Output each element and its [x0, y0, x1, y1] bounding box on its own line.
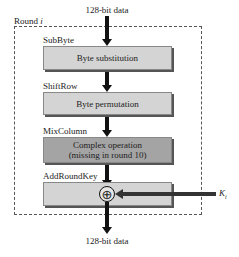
arrow-down-icon: [102, 85, 112, 92]
arrow-left-icon: [115, 189, 123, 199]
subbyte-description: Byte substitution: [77, 53, 138, 63]
mixcolumn-description-line1: Complex operation: [73, 140, 142, 150]
arrow-down-icon: [102, 227, 112, 234]
round-key-label: Ki: [219, 189, 227, 200]
xor-icon: ⊕: [99, 186, 115, 202]
input-data-label: 128-bit data: [85, 6, 128, 15]
arrow-input-shaft: [105, 16, 109, 39]
shiftrow-description: Byte permutation: [76, 99, 139, 109]
arrow-output-shaft: [105, 202, 109, 227]
arrow-shaft: [105, 117, 109, 130]
step-label-subbyte: SubByte: [43, 36, 74, 45]
step-label-mixcolumn: MixColumn: [43, 127, 87, 136]
subbyte-box: Byte substitution: [43, 46, 172, 70]
round-index: i: [40, 16, 43, 26]
arrow-shaft: [105, 72, 109, 85]
arrow-down-icon: [102, 39, 112, 46]
mixcolumn-box: Complex operation (missing in round 10): [43, 137, 172, 163]
step-label-shiftrow: ShiftRow: [43, 82, 78, 91]
arrow-down-icon: [102, 130, 112, 137]
output-data-label: 128-bit data: [85, 237, 128, 246]
key-subscript: i: [225, 194, 227, 200]
key-arrow-shaft: [123, 192, 216, 196]
round-label: Round i: [14, 17, 43, 26]
mixcolumn-description-line2: (missing in round 10): [69, 150, 147, 160]
shiftrow-box: Byte permutation: [43, 92, 172, 115]
step-label-addroundkey: AddRoundKey: [43, 172, 98, 181]
round-label-text: Round: [14, 16, 40, 26]
